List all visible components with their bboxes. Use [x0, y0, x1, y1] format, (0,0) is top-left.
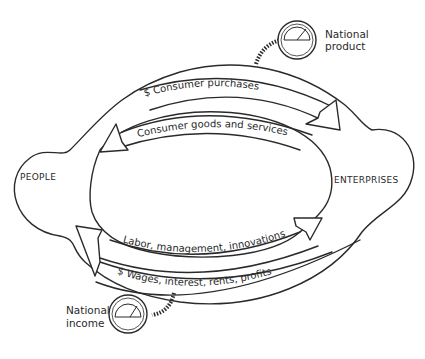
- arrowhead-left-icon: [76, 226, 102, 276]
- gauge-label-line2: income: [66, 317, 104, 329]
- gauge-cable: [256, 40, 280, 64]
- node-people: PEOPLE: [20, 172, 56, 182]
- gauge-national-income: National income: [66, 293, 174, 333]
- arrowhead-left-icon: [100, 124, 128, 152]
- node-enterprises: ENTERPRISES: [334, 175, 399, 185]
- gauge-national-product: National product: [256, 21, 369, 64]
- gauge-label-line1: National: [66, 304, 110, 316]
- circular-flow-diagram: $ Consumer purchases Consumer goods and …: [0, 0, 425, 359]
- gauge-cable: [152, 293, 174, 315]
- label-consumer-purchases: $ Consumer purchases: [142, 77, 260, 98]
- gauge-icon: [109, 295, 147, 333]
- gauge-label-line2: product: [325, 40, 365, 52]
- gauge-label-line1: National: [325, 28, 369, 40]
- arrowhead-right-icon: [294, 218, 322, 240]
